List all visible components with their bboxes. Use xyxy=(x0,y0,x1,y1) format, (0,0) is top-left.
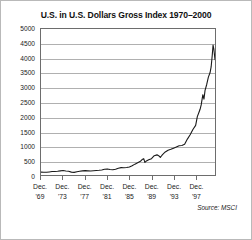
y-axis-tick-label: 2500 xyxy=(1,99,35,106)
y-axis-tick-label: 4500 xyxy=(1,39,35,46)
x-tick-year: '97 xyxy=(179,192,213,202)
chart-title: U.S. in U.S. Dollars Gross Index 1970–20… xyxy=(1,10,251,20)
series-polyline xyxy=(41,45,215,172)
x-axis-tick-mark xyxy=(85,176,86,180)
x-axis-tick-label: Dec.'97 xyxy=(179,182,213,201)
chart-figure: U.S. in U.S. Dollars Gross Index 1970–20… xyxy=(0,0,252,240)
y-axis-tick-label: 3000 xyxy=(1,84,35,91)
x-axis-tick-mark xyxy=(129,176,130,180)
x-axis-tick-mark xyxy=(174,176,175,180)
y-axis-tick-label: 3500 xyxy=(1,69,35,76)
y-axis-tick-label: 4000 xyxy=(1,54,35,61)
plot-area xyxy=(40,28,216,176)
x-axis-tick-mark xyxy=(152,176,153,180)
series-line-chart xyxy=(41,29,215,175)
y-axis-tick-label: 1000 xyxy=(1,143,35,150)
x-axis-tick-mark xyxy=(40,176,41,180)
x-axis-tick-mark xyxy=(107,176,108,180)
x-axis-tick-mark xyxy=(62,176,63,180)
x-tick-month: Dec. xyxy=(179,182,213,192)
y-axis-tick-label: 500 xyxy=(1,158,35,165)
x-axis-tick-mark xyxy=(196,176,197,180)
y-axis-tick-label: 0 xyxy=(1,173,35,180)
source-note: Source: MSCI xyxy=(197,204,237,211)
y-axis-tick-label: 2000 xyxy=(1,113,35,120)
y-axis-tick-label: 1500 xyxy=(1,128,35,135)
y-axis-tick-label: 5000 xyxy=(1,25,35,32)
